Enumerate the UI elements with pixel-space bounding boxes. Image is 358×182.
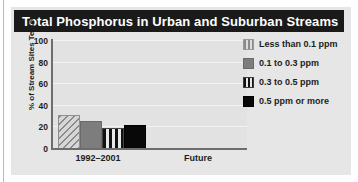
x-tick-1992-2001: 1992–2001 xyxy=(48,153,148,163)
chart-title-bar: Total Phosphorus in Urban and Suburban S… xyxy=(14,10,344,32)
gridline-60 xyxy=(52,83,247,84)
bar-1992-2001-0-5-ppm-or-more xyxy=(124,125,146,149)
x-tick-future: Future xyxy=(148,153,248,163)
legend-swatch-icon-0-5-ppm-or-more xyxy=(243,96,254,107)
y-tick-20: 20 xyxy=(26,123,48,132)
legend-swatch-icon-less-than-0-1-ppm xyxy=(243,39,254,50)
bar-1992-2001-less-than-0-1-ppm xyxy=(58,115,80,149)
page-edge-rule xyxy=(3,0,4,182)
chart-legend: Less than 0.1 ppm 0.1 to 0.3 ppm 0.3 to … xyxy=(243,37,351,113)
chart-title: Total Phosphorus in Urban and Suburban S… xyxy=(14,14,338,29)
y-axis-label: % of Stream Sites Tested xyxy=(27,3,36,123)
legend-item-0-1-to-0-3-ppm: 0.1 to 0.3 ppm xyxy=(243,56,351,70)
gridline-40 xyxy=(52,105,247,106)
legend-item-0-3-to-0-5-ppm: 0.3 to 0.5 ppm xyxy=(243,75,351,89)
bar-1992-2001-0-3-to-0-5-ppm xyxy=(102,128,124,149)
legend-swatch-icon-0-3-to-0-5-ppm xyxy=(243,77,254,88)
legend-label-0-3-to-0-5-ppm: 0.3 to 0.5 ppm xyxy=(259,78,319,87)
legend-label-0-5-ppm-or-more: 0.5 ppm or more xyxy=(259,97,329,106)
gridline-100 xyxy=(52,40,247,41)
plot-area xyxy=(52,40,247,149)
y-tick-0: 0 xyxy=(26,145,48,154)
bar-1992-2001-0-1-to-0-3-ppm xyxy=(80,121,102,149)
legend-label-0-1-to-0-3-ppm: 0.1 to 0.3 ppm xyxy=(259,59,319,68)
legend-swatch-icon-0-1-to-0-3-ppm xyxy=(243,58,254,69)
x-axis-line xyxy=(51,148,247,150)
legend-label-less-than-0-1-ppm: Less than 0.1 ppm xyxy=(259,40,338,49)
gridline-80 xyxy=(52,62,247,63)
legend-item-less-than-0-1-ppm: Less than 0.1 ppm xyxy=(243,37,351,51)
y-axis-line xyxy=(51,39,53,150)
chart-figure: Total Phosphorus in Urban and Suburban S… xyxy=(0,0,358,182)
legend-item-0-5-ppm-or-more: 0.5 ppm or more xyxy=(243,94,351,108)
